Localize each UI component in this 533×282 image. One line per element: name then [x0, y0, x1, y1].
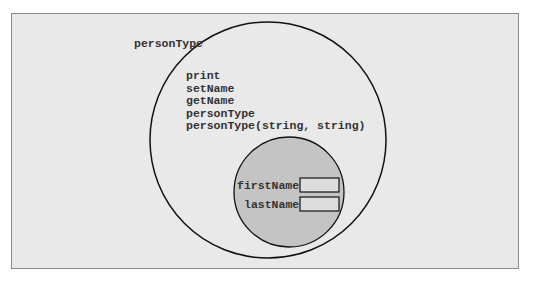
field-firstName-label: firstName	[237, 179, 299, 192]
field-lastName-box	[300, 197, 339, 211]
member-param-constructor: personType(string, string)	[186, 119, 365, 132]
member-print: print	[186, 69, 221, 82]
member-getName: getName	[186, 94, 234, 107]
field-lastName-label: lastName	[244, 198, 299, 211]
field-firstName-box	[300, 178, 339, 192]
class-diagram: personType print setName getName personT…	[0, 0, 533, 282]
class-name-label: personType	[134, 37, 203, 50]
